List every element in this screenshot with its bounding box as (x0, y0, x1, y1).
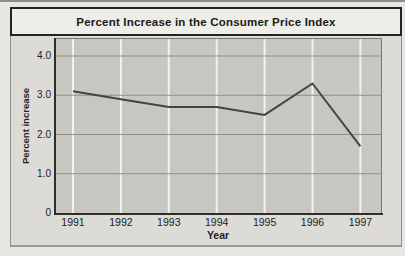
x-tick-label-1997: 1997 (338, 216, 382, 228)
page-top-rule (0, 0, 405, 2)
y-tick-label-4.0: 4.0 (11, 50, 51, 62)
plot-area-svg (54, 38, 383, 216)
x-tick-label-1991: 1991 (51, 216, 95, 228)
x-axis-title: Year (196, 229, 240, 241)
page: { "page": { "top_rule_color": "#8d8d8b",… (0, 0, 405, 256)
y-tick-label-2.0: 2.0 (11, 129, 51, 141)
y-tick-label-3.0: 3.0 (11, 89, 51, 101)
cpi-line-graph-figure: Percent Increase in the Consumer Price I… (10, 7, 402, 247)
y-tick-label-0: 0 (11, 207, 51, 219)
y-tick-label-1.0: 1.0 (11, 168, 51, 180)
x-tick-label-1996: 1996 (291, 216, 335, 228)
chart-title-bar: Percent Increase in the Consumer Price I… (10, 7, 402, 36)
x-tick-label-1995: 1995 (243, 216, 287, 228)
plot-background (56, 39, 381, 214)
x-tick-label-1994: 1994 (195, 216, 239, 228)
x-tick-label-1993: 1993 (147, 216, 191, 228)
chart-region: Percent increase Year 4.03.02.01.0019911… (10, 36, 402, 247)
x-tick-label-1992: 1992 (99, 216, 143, 228)
chart-title: Percent Increase in the Consumer Price I… (76, 16, 335, 28)
